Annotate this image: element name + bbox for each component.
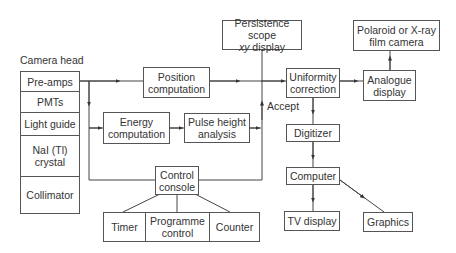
position-computation-box: Position computation bbox=[143, 67, 210, 98]
persistence-scope-box: Persistence scope xy display bbox=[222, 20, 302, 50]
timer-cell: Timer bbox=[104, 213, 146, 241]
xy-italic: xy bbox=[239, 41, 250, 53]
pulse-height-analysis-box: Pulse height analysis bbox=[184, 113, 250, 143]
camera-head-stack: Pre-amps PMTs Light guide NaI (Tl) cryst… bbox=[20, 71, 80, 214]
counter-cell: Counter bbox=[210, 213, 259, 241]
graphics-box: Graphics bbox=[363, 212, 413, 232]
persistence-scope-line2: xy display bbox=[239, 41, 285, 53]
polaroid-camera-box: Polaroid or X-ray film camera bbox=[353, 20, 440, 51]
camera-head-title: Camera head bbox=[20, 54, 84, 66]
pre-amps-cell: Pre-amps bbox=[21, 72, 79, 92]
display-text: display bbox=[249, 41, 285, 53]
pmts-cell: PMTs bbox=[21, 92, 79, 113]
uniformity-correction-box: Uniformity correction bbox=[286, 68, 340, 98]
accept-label: Accept bbox=[267, 100, 299, 112]
energy-computation-box: Energy computation bbox=[103, 112, 170, 144]
digitizer-box: Digitizer bbox=[286, 124, 340, 142]
tv-display-box: TV display bbox=[284, 211, 340, 231]
programme-control-cell: Programme control bbox=[146, 213, 210, 241]
persistence-scope-line1: Persistence scope bbox=[223, 17, 301, 41]
control-units-row: Timer Programme control Counter bbox=[103, 212, 260, 242]
control-console-box: Control console bbox=[155, 166, 199, 195]
light-guide-cell: Light guide bbox=[21, 113, 79, 136]
analogue-display-box: Analogue display bbox=[363, 70, 416, 101]
collimator-cell: Collimator bbox=[21, 177, 79, 213]
computer-box: Computer bbox=[286, 167, 340, 185]
nai-crystal-cell: NaI (Tl) crystal bbox=[21, 136, 79, 177]
